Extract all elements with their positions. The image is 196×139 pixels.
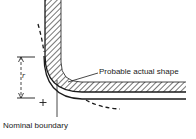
corner-radius-diagram: Probable actual shape Nominal boundary r (0, 0, 196, 139)
dashed-extension (38, 24, 44, 52)
hatched-material (45, 0, 186, 92)
label-radius: r (22, 71, 25, 80)
dashed-extension-lower (86, 100, 120, 109)
label-nominal-boundary: Nominal boundary (3, 121, 68, 130)
label-probable-actual-shape: Probable actual shape (99, 67, 179, 76)
